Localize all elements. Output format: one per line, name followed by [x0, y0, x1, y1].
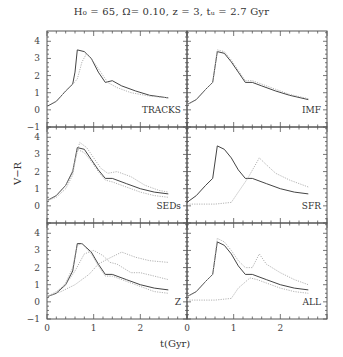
series-line-dotted	[47, 53, 168, 106]
series-line-solid	[187, 52, 308, 105]
series-line-dotted	[187, 50, 308, 105]
y-tick-label: 4	[34, 228, 40, 238]
y-tick-label: 2	[34, 167, 40, 177]
series-line-dotted-upper	[47, 142, 168, 200]
y-tick-label: 1	[34, 280, 40, 290]
x-tick-label: 2	[277, 323, 283, 333]
y-tick-label: −1	[27, 122, 40, 132]
y-tick-label: −1	[27, 314, 40, 324]
y-tick-label: 4	[34, 36, 40, 46]
y-tick-label: 0	[34, 297, 40, 307]
panel-label: ALL	[302, 297, 321, 307]
y-tick-label: 3	[34, 53, 40, 63]
y-tick-label: 1	[34, 184, 40, 194]
x-tick-label: 2	[137, 323, 143, 333]
series-line-dotted-a	[47, 244, 168, 297]
y-tick-label: 0	[34, 201, 40, 211]
panel-label: IMF	[302, 105, 321, 115]
series-line-solid	[187, 146, 308, 203]
x-tick-label: 1	[231, 323, 237, 333]
series-line-solid	[47, 244, 168, 297]
y-tick-label: 2	[34, 71, 40, 81]
series-line-dotted-lower	[47, 149, 168, 200]
series-line-solid	[187, 242, 308, 297]
y-tick-label: 0	[34, 105, 40, 115]
y-tick-label: 3	[34, 245, 40, 255]
series-line-solid	[47, 148, 168, 201]
panel-label: SFR	[302, 201, 321, 211]
panel-label: TRACKS	[142, 105, 181, 115]
y-tick-label: 3	[34, 149, 40, 159]
series-line-dotted-upper	[187, 238, 308, 296]
x-tick-label: 1	[91, 323, 97, 333]
x-tick-label: 0	[184, 323, 190, 333]
y-tick-label: 4	[34, 132, 40, 142]
y-tick-label: 2	[34, 263, 40, 273]
panel-label: Z	[175, 297, 181, 307]
chart-grid: −101234TRACKSIMF01234SEDsSFR01234−1012Z0…	[0, 0, 343, 357]
y-tick-label: 1	[34, 88, 40, 98]
x-tick-label: 0	[44, 323, 50, 333]
panel-label: SEDs	[156, 201, 181, 211]
series-line-dotted	[187, 158, 308, 204]
series-line-solid	[47, 50, 168, 107]
panel-frame	[47, 223, 187, 319]
